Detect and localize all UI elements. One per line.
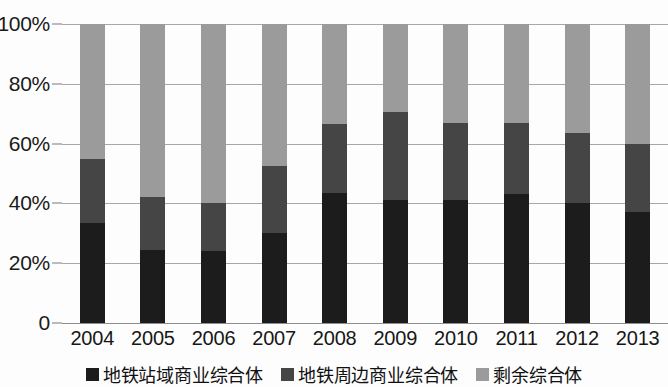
y-tick-mark xyxy=(52,83,62,84)
y-axis-tick-label: 100% xyxy=(0,12,50,36)
chart-legend: 地铁站域商业综合体地铁周边商业综合体剩余综合体 xyxy=(0,361,668,387)
legend-swatch-icon xyxy=(476,368,489,381)
bar-segment xyxy=(262,24,287,166)
y-axis-tick-label: 60% xyxy=(9,132,50,156)
bar-segment xyxy=(322,24,347,124)
bar-segment xyxy=(201,203,226,251)
bar-group-2012 xyxy=(565,24,590,323)
bar-group-2009 xyxy=(383,24,408,323)
legend-item: 地铁周边商业综合体 xyxy=(281,361,458,387)
x-axis-tick-label: 2009 xyxy=(373,327,417,350)
gridline-0 xyxy=(62,323,668,324)
bar-segment xyxy=(140,24,165,197)
bar-segment xyxy=(201,251,226,323)
y-tick-mark xyxy=(52,24,62,25)
stacked-bar-chart: 020%40%60%80%100% 2004200520062007200820… xyxy=(0,0,668,387)
legend-swatch-icon xyxy=(281,368,294,381)
y-tick-mark xyxy=(52,143,62,144)
legend-item-label: 剩余综合体 xyxy=(493,361,582,387)
bar-segment xyxy=(625,144,650,213)
bar-group-2007 xyxy=(262,24,287,323)
bar-group-2013 xyxy=(625,24,650,323)
bar-segment xyxy=(625,212,650,323)
bar-segment xyxy=(383,112,408,200)
plot-area xyxy=(62,24,668,323)
x-axis-tick-label: 2006 xyxy=(192,327,236,350)
legend-item: 地铁站域商业综合体 xyxy=(86,361,263,387)
x-axis-tick-label: 2010 xyxy=(434,327,478,350)
bar-group-2008 xyxy=(322,24,347,323)
bar-segment xyxy=(262,166,287,233)
bar-segment xyxy=(201,24,226,203)
x-axis-tick-label: 2011 xyxy=(495,327,537,350)
bar-segment xyxy=(504,123,529,195)
y-axis-tick-label: 20% xyxy=(9,251,50,275)
bar-group-2010 xyxy=(443,24,468,323)
x-axis: 2004200520062007200820092010201120122013 xyxy=(0,327,668,357)
legend-item: 剩余综合体 xyxy=(476,361,582,387)
x-axis-tick-label: 2007 xyxy=(252,327,296,350)
bar-segment xyxy=(140,197,165,249)
bar-segment xyxy=(322,193,347,323)
bar-segment xyxy=(383,24,408,112)
bar-segment xyxy=(504,194,529,323)
bar-segment xyxy=(565,203,590,323)
y-tick-mark xyxy=(52,263,62,264)
y-tick-mark xyxy=(52,323,62,324)
bar-segment xyxy=(262,233,287,323)
legend-item-label: 地铁周边商业综合体 xyxy=(298,361,458,387)
x-axis-tick-label: 2012 xyxy=(555,327,599,350)
bar-group-2005 xyxy=(140,24,165,323)
bar-segment xyxy=(443,24,468,123)
x-axis-tick-label: 2013 xyxy=(616,327,660,350)
x-axis-tick-label: 2005 xyxy=(131,327,175,350)
bar-group-2006 xyxy=(201,24,226,323)
bar-segment xyxy=(80,223,105,323)
x-axis-tick-label: 2008 xyxy=(313,327,357,350)
bar-segment xyxy=(565,133,590,203)
bar-group-2011 xyxy=(504,24,529,323)
bar-segment xyxy=(443,200,468,323)
y-tick-mark xyxy=(52,203,62,204)
bar-segment xyxy=(504,24,529,123)
x-axis-tick-label: 2004 xyxy=(70,327,114,350)
y-axis-tick-label: 80% xyxy=(9,72,50,96)
legend-swatch-icon xyxy=(86,368,99,381)
bar-segment xyxy=(625,24,650,144)
bar-segment xyxy=(140,250,165,323)
y-axis-tick-label: 40% xyxy=(9,191,50,215)
bar-segment xyxy=(565,24,590,133)
bar-segment xyxy=(443,123,468,201)
bar-segment xyxy=(80,159,105,223)
bar-group-2004 xyxy=(80,24,105,323)
bar-segment xyxy=(383,200,408,323)
bar-segment xyxy=(80,24,105,159)
legend-item-label: 地铁站域商业综合体 xyxy=(103,361,263,387)
bar-segment xyxy=(322,124,347,193)
